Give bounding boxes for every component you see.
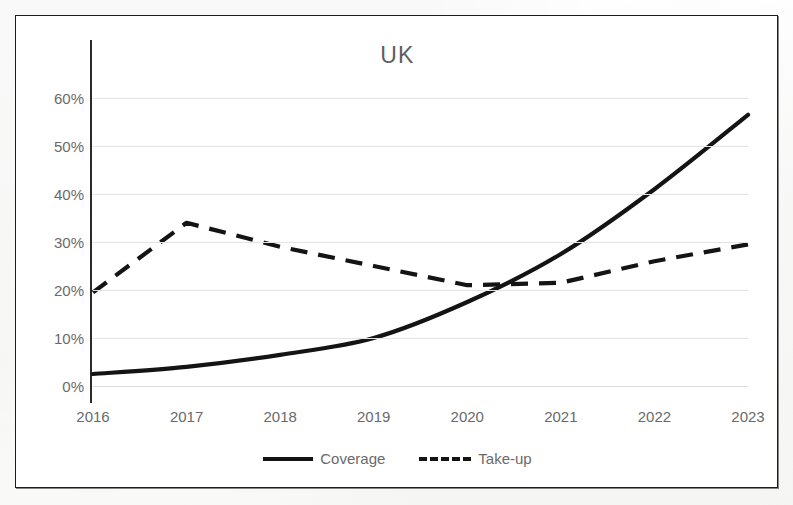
legend-label-take-up: Take-up: [478, 450, 531, 467]
y-tick-label-0%: 0%: [62, 378, 84, 395]
gridline-50%: [93, 146, 748, 147]
legend-label-coverage: Coverage: [320, 450, 385, 467]
x-tick-label-2016: 2016: [76, 408, 109, 425]
gridline-30%: [93, 242, 748, 243]
legend-swatch-dashed-icon: [419, 457, 471, 461]
x-tick-label-2020: 2020: [451, 408, 484, 425]
legend-item-take-up[interactable]: Take-up: [419, 450, 531, 467]
x-tick-label-2019: 2019: [357, 408, 390, 425]
gridline-20%: [93, 290, 748, 291]
chart-title: UK: [16, 42, 779, 69]
x-tick-label-2022: 2022: [638, 408, 671, 425]
legend-item-coverage[interactable]: Coverage: [263, 450, 385, 467]
plot-area: 60%50%40%30%20%10%0%: [93, 98, 748, 386]
legend-swatch-solid-icon: [263, 457, 313, 461]
gridline-40%: [93, 194, 748, 195]
y-tick-label-20%: 20%: [54, 282, 84, 299]
y-tick-label-60%: 60%: [54, 90, 84, 107]
x-tick-label-2021: 2021: [544, 408, 577, 425]
series-line-coverage: [93, 115, 748, 374]
x-tick-label-2017: 2017: [170, 408, 203, 425]
series-line-take-up: [93, 223, 748, 293]
gridline-60%: [93, 98, 748, 99]
gridline-0%: [93, 386, 748, 387]
y-tick-label-40%: 40%: [54, 186, 84, 203]
x-tick-label-2018: 2018: [263, 408, 296, 425]
y-tick-label-10%: 10%: [54, 330, 84, 347]
x-tick-label-2023: 2023: [731, 408, 764, 425]
y-tick-label-30%: 30%: [54, 234, 84, 251]
y-axis-line: [90, 40, 92, 403]
gridline-10%: [93, 338, 748, 339]
figure-caption: [42, 495, 752, 505]
chart-frame: UK 60%50%40%30%20%10%0% 2016201720182019…: [15, 15, 778, 488]
y-tick-label-50%: 50%: [54, 138, 84, 155]
chart-legend: Coverage Take-up: [16, 450, 779, 467]
